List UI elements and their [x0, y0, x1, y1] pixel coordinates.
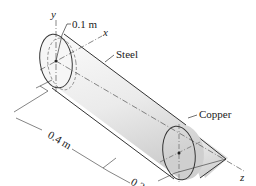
cone-length-label: 0.3 m [129, 175, 157, 186]
copper-label: Copper [199, 108, 232, 120]
cylinder-length-label: 0.4 m [46, 128, 74, 151]
shaft-diagram: z y x 0.1 m Steel Copper 0.4 m [0, 0, 256, 186]
radius-label: 0.1 m [72, 18, 98, 30]
steel-callout: Steel [105, 48, 138, 62]
z-axis-label: z [239, 171, 245, 183]
steel-label: Steel [116, 48, 138, 60]
copper-callout: Copper [188, 108, 232, 120]
y-axis-label: y [50, 8, 56, 20]
x-axis-label: x [102, 26, 108, 38]
